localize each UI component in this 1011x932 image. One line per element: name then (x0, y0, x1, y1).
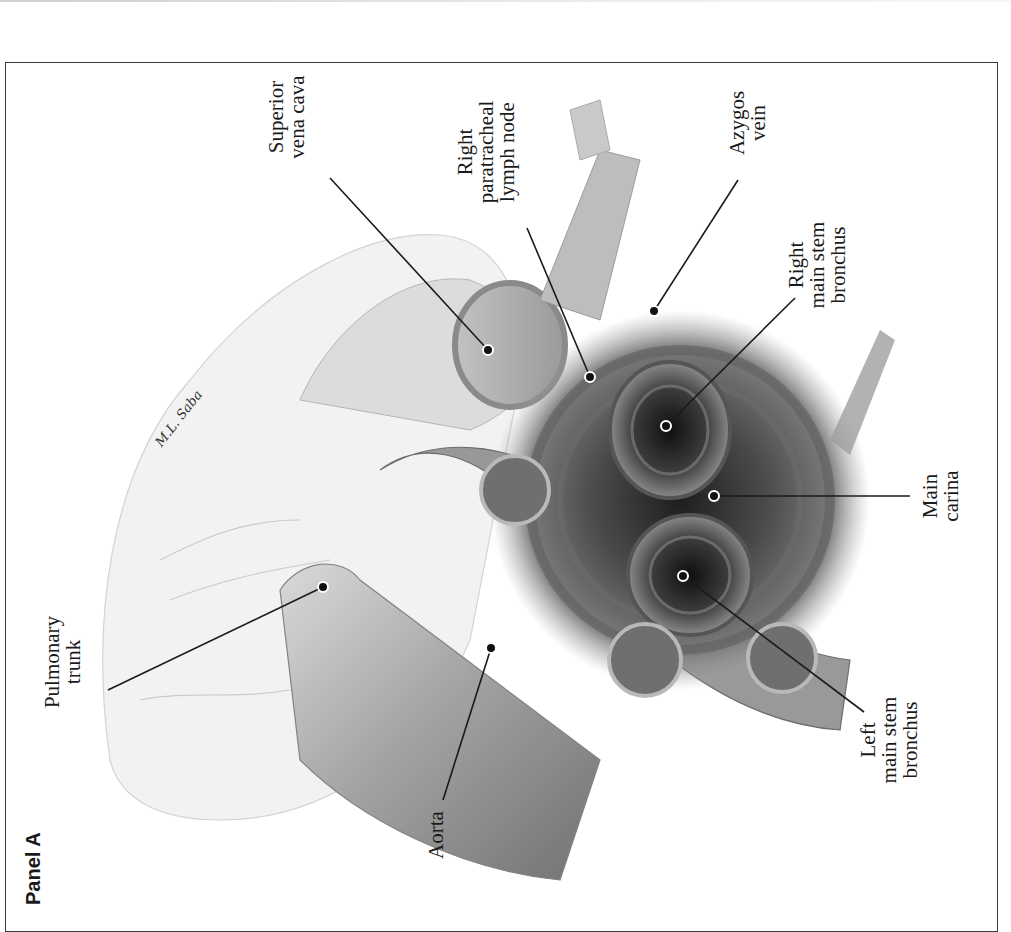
leader-azygos-vein (654, 180, 738, 311)
label-aorta: Aorta (426, 800, 447, 870)
label-pulmonary-trunk: Pulmonary trunk (42, 602, 84, 722)
marker-dot (483, 345, 493, 355)
marker-dot (678, 571, 688, 581)
left-bronchus-lumen (628, 515, 752, 635)
panel-label: Panel A (22, 832, 45, 905)
marker-dot (649, 306, 659, 316)
label-azygos-vein: Azygos vein (727, 68, 769, 178)
label-right-paratracheal-lymph-node: Right paratracheal lymph node (455, 82, 518, 222)
marker-dot (661, 421, 671, 431)
label-right-main-stem-bronchus: Right main stem bronchus (786, 205, 849, 325)
marker-dot (486, 643, 496, 653)
marker-dot (585, 372, 595, 382)
label-superior-vena-cava: Superior vena cava (266, 62, 308, 172)
label-main-carina: Main carina (920, 456, 962, 536)
marker-dot (318, 582, 328, 592)
marker-dot (709, 491, 719, 501)
label-left-main-stem-bronchus: Left main stem bronchus (858, 680, 921, 800)
azygos-vessel (540, 100, 640, 320)
